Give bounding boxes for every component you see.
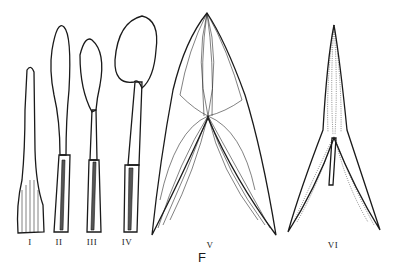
label-i: I [28, 237, 32, 247]
label-iii: III [87, 237, 98, 247]
leaf-forms-figure: I II III IV V VI F [0, 0, 395, 271]
leaf-ii [51, 26, 70, 232]
label-ii: II [56, 237, 63, 247]
leaf-iii [80, 39, 102, 232]
leaf-v [152, 13, 276, 235]
label-v: V [207, 240, 214, 250]
figure-letter: F [198, 250, 206, 265]
label-iv: IV [122, 237, 133, 247]
leaf-vi [288, 25, 380, 232]
leaf-i [18, 67, 45, 233]
leaf-illustrations [0, 0, 395, 271]
leaf-iv [115, 16, 157, 232]
label-vi: VI [328, 240, 339, 250]
